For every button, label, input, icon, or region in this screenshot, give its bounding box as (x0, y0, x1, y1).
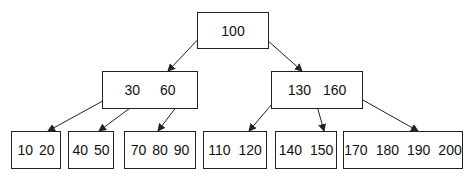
node-key: 10 (17, 142, 33, 158)
leaf-node: 110 120 (203, 131, 267, 169)
node-key: 140 (279, 142, 302, 158)
node-key: 130 (288, 82, 311, 98)
node-key: 120 (238, 142, 261, 158)
leaf-node: 10 20 (11, 131, 61, 169)
node-key: 180 (376, 142, 399, 158)
node-key: 60 (160, 82, 176, 98)
node-key: 100 (221, 23, 244, 39)
internal-node-left: 30 60 (102, 71, 198, 109)
node-key: 30 (124, 82, 140, 98)
leaf-node: 140 150 (275, 131, 337, 169)
node-key: 40 (72, 142, 88, 158)
node-key: 70 (131, 142, 147, 158)
leaf-node: 170 180 190 200 (343, 131, 463, 169)
node-key: 160 (323, 82, 346, 98)
node-key: 80 (152, 142, 168, 158)
leaf-node: 40 50 (68, 131, 114, 169)
leaf-node: 70 80 90 (124, 131, 196, 169)
node-key: 170 (344, 142, 367, 158)
node-key: 110 (208, 142, 230, 158)
node-key: 150 (310, 142, 333, 158)
node-key: 50 (94, 142, 110, 158)
node-key: 20 (39, 142, 55, 158)
node-key: 90 (174, 142, 190, 158)
node-key: 190 (407, 142, 430, 158)
internal-node-right: 130 160 (271, 71, 363, 109)
root-node: 100 (197, 12, 269, 49)
node-key: 200 (438, 142, 461, 158)
